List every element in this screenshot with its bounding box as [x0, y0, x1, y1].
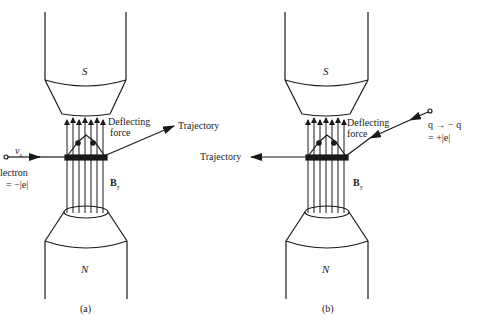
south-pole-magnet-a [45, 12, 126, 116]
field-symbol: B [353, 177, 360, 188]
beam-bar-a [65, 155, 107, 160]
caption-a: (a) [80, 303, 91, 314]
field-symbol: B [110, 177, 117, 188]
caption-b: (b) [322, 303, 334, 314]
north-pole-label-b: N [322, 264, 329, 275]
electron-source-a [4, 155, 8, 159]
south-pole-label-b: S [323, 66, 329, 77]
charge-label-b: = +|e| [428, 132, 450, 143]
field-subscript: y [360, 184, 363, 190]
deflecting-force-label-b: Deflecting force [347, 117, 389, 139]
trajectory-label-b: Trajectory [200, 151, 241, 162]
field-subscript: y [117, 184, 120, 190]
field-label-b: By [353, 177, 363, 193]
field-label-a: By [110, 177, 120, 193]
beam-bar-b [306, 155, 348, 160]
charge-label-a: = −|e| [6, 179, 28, 190]
north-pole-magnet-b [286, 206, 368, 299]
panel-b [251, 12, 432, 299]
south-pole-magnet-b [285, 12, 368, 116]
velocity-subscript: x [19, 152, 22, 158]
south-pole-label-a: S [82, 66, 88, 77]
velocity-label-a: vx [15, 145, 22, 161]
particle-label-b: q → − q [428, 119, 461, 130]
particle-source-b [428, 109, 432, 113]
north-pole-label-a: N [81, 264, 88, 275]
particle-label-a: lectron [0, 167, 28, 178]
trajectory-label-a: Trajectory [178, 120, 219, 131]
panel-a [4, 12, 174, 299]
force-label-line1: Deflecting [108, 116, 150, 127]
incoming-path-b [410, 112, 428, 120]
magnetic-field-lines-b [308, 118, 344, 213]
deflecting-force-label-a: Deflecting force [108, 116, 150, 138]
force-label-line1: Deflecting [347, 117, 389, 128]
magnetic-field-lines-a [67, 118, 103, 213]
diagram-canvas [0, 0, 483, 326]
north-pole-magnet-a [45, 206, 127, 299]
force-label-line2: force [347, 128, 368, 139]
force-label-line2: force [108, 127, 131, 138]
